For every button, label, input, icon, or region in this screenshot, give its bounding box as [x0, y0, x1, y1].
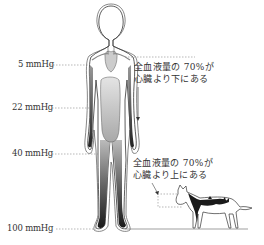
- dog-blood-note: 全血液量の 70%が 心臓より上にある: [133, 157, 213, 181]
- dog-note-line1: 全血液量の 70%が: [133, 157, 213, 169]
- human-note-line1: 全血液量の 70%が: [134, 61, 214, 73]
- abdomen-blood: [101, 77, 121, 142]
- pressure-label-100: 100 mmHg: [7, 223, 53, 233]
- diagram-graphics: [0, 0, 264, 245]
- dog-note-arrow-icon: [152, 183, 159, 195]
- human-note-line2: 心臓より下にある: [134, 73, 214, 85]
- human-blood-note: 全血液量の 70%が 心臓より下にある: [134, 61, 214, 85]
- dog-note-line2: 心臓より上にある: [133, 169, 213, 181]
- pressure-label-5: 5 mmHg: [18, 59, 54, 69]
- dog-outline: [176, 185, 252, 228]
- pressure-label-22: 22 mmHg: [12, 102, 53, 112]
- human-figure: [85, 4, 139, 231]
- blood-distribution-diagram: 5 mmHg 22 mmHg 40 mmHg 100 mmHg 全血液量の 70…: [0, 0, 264, 245]
- dog-figure: [176, 185, 252, 228]
- pressure-label-40: 40 mmHg: [12, 148, 53, 158]
